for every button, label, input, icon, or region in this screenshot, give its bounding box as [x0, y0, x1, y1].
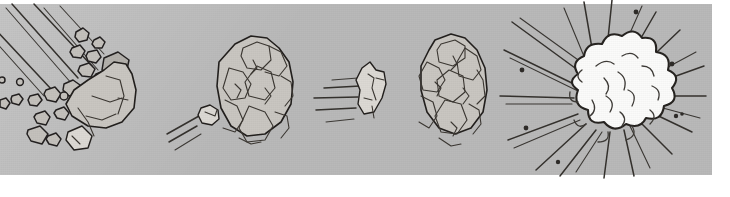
- speed-lines-icon: [314, 78, 360, 122]
- sketch-canvas: Five-stage comic strip: shattering debri…: [0, 0, 730, 197]
- panel-asteroid-large-a: [165, 4, 310, 175]
- artwork-caption: Five-stage comic strip: shattering debri…: [0, 0, 1, 1]
- fragment-body-icon: [356, 62, 386, 118]
- small-fragment-icon: [198, 105, 219, 125]
- panel-shattering-debris: [0, 4, 165, 175]
- panel-fragment-in-flight: [310, 4, 395, 175]
- paper-background: [0, 4, 712, 175]
- panel-explosion-burst: [500, 4, 712, 175]
- speed-lines-icon: [167, 116, 201, 150]
- panel-asteroid-large-b: [395, 4, 500, 175]
- asteroid-body-icon: [217, 36, 293, 144]
- asteroid-body-icon: [419, 34, 487, 146]
